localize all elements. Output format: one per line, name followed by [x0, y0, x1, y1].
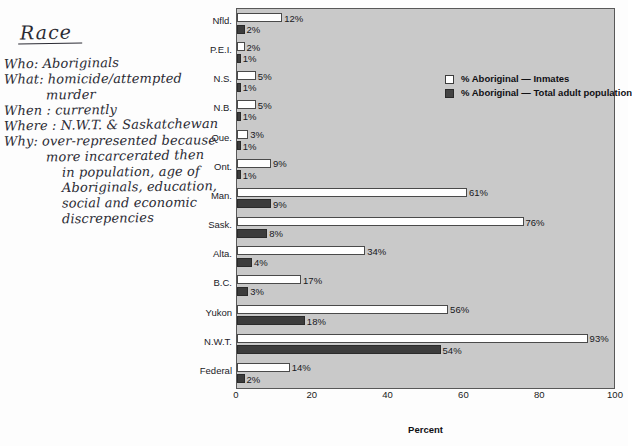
bar-value-label: 12% [284, 12, 303, 23]
bar-inmates: 93% [237, 334, 588, 343]
bar-total-adult-population: 3% [237, 287, 248, 296]
legend-label-total-adult-population: % Aboriginal — Total adult population [461, 86, 632, 100]
bar-group: Sask.76%8% [237, 214, 614, 243]
bar-value-label: 54% [443, 344, 462, 355]
bar-inmates: 76% [237, 217, 524, 226]
bar-value-label: 4% [254, 257, 268, 268]
bar-value-label: 61% [469, 187, 488, 198]
category-label: Yukon [206, 302, 232, 331]
x-axis-label: Percent [236, 424, 615, 435]
bar-value-label: 2% [247, 41, 261, 52]
bar-total-adult-population: 1% [237, 83, 241, 92]
bar-value-label: 3% [250, 286, 264, 297]
category-label: Ont. [214, 156, 232, 185]
bar-value-label: 1% [243, 169, 257, 180]
bar-value-label: 2% [247, 373, 261, 384]
bar-total-adult-population: 1% [237, 170, 241, 179]
bar-inmates: 2% [237, 42, 245, 51]
legend-item-inmates: % Aboriginal — Inmates [445, 72, 632, 86]
x-axis-tick: 20 [307, 389, 318, 400]
bar-total-adult-population: 18% [237, 316, 305, 325]
bar-group: Nfld.12%2% [237, 10, 614, 39]
bar-value-label: 5% [258, 99, 272, 110]
bar-inmates: 61% [237, 188, 467, 197]
bar-inmates: 12% [237, 13, 282, 22]
bar-total-adult-population: 4% [237, 258, 252, 267]
category-label: Nfld. [212, 10, 232, 39]
bar-value-label: 9% [273, 158, 287, 169]
bar-group: Yukon56%18% [237, 302, 614, 331]
bar-value-label: 1% [243, 82, 257, 93]
bar-inmates: 34% [237, 246, 365, 255]
category-label: N.B. [214, 97, 232, 126]
legend-item-total-adult-population: % Aboriginal — Total adult population [445, 86, 632, 100]
bar-group: Federal14%2% [237, 360, 614, 389]
annotation-title: Race [18, 21, 82, 44]
bar-group: N.B.5%1% [237, 97, 614, 126]
category-label: Alta. [213, 243, 232, 272]
legend-swatch-total-adult-population [445, 89, 454, 98]
bar-total-adult-population: 8% [237, 229, 267, 238]
bar-value-label: 18% [307, 315, 326, 326]
bar-value-label: 1% [243, 53, 257, 64]
category-label: P.E.I. [210, 39, 232, 68]
bar-total-adult-population: 54% [237, 345, 441, 354]
bar-total-adult-population: 1% [237, 141, 241, 150]
bar-total-adult-population: 9% [237, 199, 271, 208]
bar-value-label: 3% [250, 129, 264, 140]
x-axis-tick: 0 [233, 389, 238, 400]
bar-chart: Nfld.12%2%P.E.I.2%1%N.S.5%1%N.B.5%1%Que.… [186, 0, 628, 446]
x-axis-tick: 80 [534, 389, 545, 400]
bar-group: N.W.T.93%54% [237, 331, 614, 360]
category-label: Que. [211, 127, 232, 156]
category-label: N.W.T. [204, 331, 232, 360]
plot-area: Nfld.12%2%P.E.I.2%1%N.S.5%1%N.B.5%1%Que.… [236, 8, 615, 389]
bar-value-label: 17% [303, 274, 322, 285]
x-axis: 020406080100 [236, 389, 615, 405]
x-axis-tick: 40 [382, 389, 393, 400]
bar-value-label: 9% [273, 198, 287, 209]
bar-inmates: 5% [237, 71, 256, 80]
bar-inmates: 14% [237, 363, 290, 372]
bar-group: Que.3%1% [237, 127, 614, 156]
bar-total-adult-population: 2% [237, 25, 245, 34]
bar-value-label: 76% [526, 216, 545, 227]
bar-total-adult-population: 1% [237, 54, 241, 63]
bar-value-label: 8% [269, 228, 283, 239]
bar-inmates: 56% [237, 305, 448, 314]
chart-legend: % Aboriginal — Inmates % Aboriginal — To… [445, 72, 632, 100]
bar-total-adult-population: 2% [237, 374, 245, 383]
bar-value-label: 2% [247, 24, 261, 35]
bar-group: Ont.9%1% [237, 156, 614, 185]
bar-value-label: 1% [243, 111, 257, 122]
bar-total-adult-population: 1% [237, 112, 241, 121]
chart-title [236, 0, 615, 4]
legend-label-inmates: % Aboriginal — Inmates [461, 72, 569, 86]
bar-group: P.E.I.2%1% [237, 39, 614, 68]
bar-value-label: 1% [243, 140, 257, 151]
bar-value-label: 93% [590, 333, 609, 344]
bar-group: B.C.17%3% [237, 272, 614, 301]
bar-group: Man.61%9% [237, 185, 614, 214]
bar-inmates: 9% [237, 159, 271, 168]
category-label: Federal [200, 360, 232, 389]
x-axis-tick: 100 [607, 389, 623, 400]
category-label: N.S. [214, 68, 232, 97]
legend-swatch-inmates [445, 75, 454, 84]
x-axis-tick: 60 [458, 389, 469, 400]
category-label: Man. [211, 185, 232, 214]
bar-value-label: 14% [292, 362, 311, 373]
bar-value-label: 56% [450, 304, 469, 315]
bar-inmates: 5% [237, 100, 256, 109]
bar-value-label: 5% [258, 70, 272, 81]
bar-group: Alta.34%4% [237, 243, 614, 272]
bar-value-label: 34% [367, 245, 386, 256]
bar-inmates: 17% [237, 275, 301, 284]
bar-inmates: 3% [237, 130, 248, 139]
category-label: Sask. [208, 214, 232, 243]
category-label: B.C. [214, 272, 232, 301]
